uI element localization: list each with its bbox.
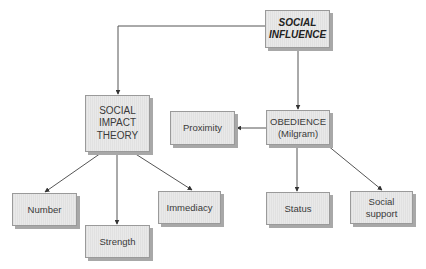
node-obedience: OBEDIENCE (Milgram) bbox=[266, 110, 330, 145]
edge-obedience-to-social-support bbox=[327, 145, 382, 190]
node-social-impact-theory: SOCIAL IMPACT THEORY bbox=[85, 95, 150, 152]
edge-social-impact-theory-to-immediacy bbox=[134, 153, 192, 190]
node-label: Social support bbox=[366, 196, 398, 220]
node-label: OBEDIENCE (Milgram) bbox=[270, 116, 326, 140]
node-proximity: Proximity bbox=[170, 111, 235, 145]
node-social-support: Social support bbox=[350, 191, 413, 224]
node-label: Strength bbox=[100, 236, 136, 248]
node-label: Number bbox=[28, 204, 62, 216]
node-strength: Strength bbox=[85, 225, 150, 258]
node-label: Immediacy bbox=[167, 202, 213, 214]
node-immediacy: Immediacy bbox=[158, 191, 221, 224]
node-number: Number bbox=[12, 193, 77, 226]
node-status: Status bbox=[266, 192, 330, 225]
node-label: Proximity bbox=[183, 122, 222, 134]
node-social-influence: SOCIAL INFLUENCE bbox=[265, 10, 330, 48]
node-label: SOCIAL IMPACT THEORY bbox=[97, 105, 139, 143]
node-label: SOCIAL INFLUENCE bbox=[269, 17, 326, 42]
edge-social-influence-to-social-impact-theory bbox=[118, 26, 265, 94]
edge-social-impact-theory-to-number bbox=[45, 153, 101, 192]
node-label: Status bbox=[285, 203, 312, 215]
